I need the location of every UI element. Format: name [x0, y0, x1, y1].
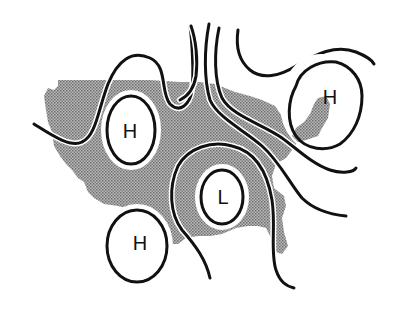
pressure-label-high-northeast: H: [323, 86, 337, 108]
pressure-label-high-northwest: H: [123, 120, 137, 142]
pressure-label-low-central: L: [217, 186, 228, 208]
pressure-center-high-northwest: H: [104, 93, 158, 167]
pressure-center-high-northeast: H: [283, 57, 362, 151]
pressure-center-low-central: L: [198, 167, 246, 227]
weather-map-svg: H H L H: [0, 0, 394, 310]
pressure-label-high-southwest: H: [133, 232, 147, 254]
pressure-center-high-southwest: H: [104, 207, 170, 285]
weather-map: H H L H: [0, 0, 394, 310]
